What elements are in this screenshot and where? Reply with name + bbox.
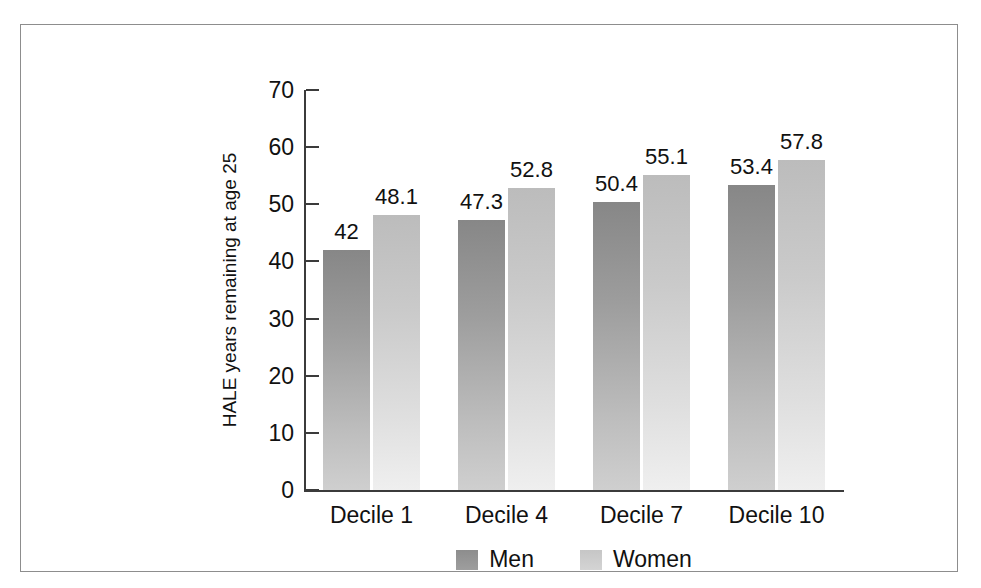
bar-women-decile-4[interactable]: 52.8 <box>508 188 555 490</box>
bar-women-decile-10[interactable]: 57.8 <box>778 160 825 490</box>
bar-group: 47.352.8 <box>458 90 555 490</box>
bar-women-decile-1[interactable]: 48.1 <box>373 215 420 490</box>
y-axis-tick-label: 70 <box>268 77 294 104</box>
chart-legend: MenWomen <box>304 546 844 573</box>
bar-men-decile-4[interactable]: 47.3 <box>458 220 505 490</box>
bar-men-decile-1[interactable]: 42 <box>323 250 370 490</box>
y-axis-tick: 60 <box>306 146 319 148</box>
bar-women-decile-7[interactable]: 55.1 <box>643 175 690 490</box>
y-axis-tick: 0 <box>306 489 319 491</box>
figure-frame: HALE years remaining at age 25 010203040… <box>20 24 958 572</box>
bar-men-decile-10[interactable]: 53.4 <box>728 185 775 490</box>
y-axis-tick-label: 0 <box>281 477 294 504</box>
bar-group: 50.455.1 <box>593 90 690 490</box>
legend-item-men[interactable]: Men <box>456 546 534 573</box>
bar-value-label: 52.8 <box>510 157 553 183</box>
x-axis-baseline <box>304 490 844 492</box>
legend-label-men: Men <box>489 546 534 573</box>
y-axis-tick: 40 <box>306 260 319 262</box>
y-axis-tick: 10 <box>306 432 319 434</box>
bar-group: 4248.1 <box>323 90 420 490</box>
bar-value-label: 47.3 <box>460 189 503 215</box>
bar-value-label: 57.8 <box>780 129 823 155</box>
y-axis-tick: 20 <box>306 375 319 377</box>
y-axis-tick-label: 60 <box>268 134 294 161</box>
y-axis-tick-label: 40 <box>268 248 294 275</box>
y-axis-title: HALE years remaining at age 25 <box>217 90 243 490</box>
plot-area: 010203040506070 4248.147.352.850.455.153… <box>304 90 844 490</box>
bar-value-label: 42 <box>334 219 358 245</box>
y-axis-spine <box>304 90 306 490</box>
y-axis-tick: 30 <box>306 318 319 320</box>
y-axis-tick-label: 20 <box>268 362 294 389</box>
y-axis-tick-label: 10 <box>268 419 294 446</box>
bar-value-label: 48.1 <box>375 184 418 210</box>
y-axis-tick-label: 30 <box>268 305 294 332</box>
legend-swatch-men <box>456 550 478 570</box>
category-label-decile-10: Decile 10 <box>697 502 857 529</box>
bar-value-label: 55.1 <box>645 144 688 170</box>
legend-label-women: Women <box>613 546 692 573</box>
legend-item-women[interactable]: Women <box>580 546 692 573</box>
y-axis-tick: 70 <box>306 89 319 91</box>
bar-group: 53.457.8 <box>728 90 825 490</box>
y-axis-tick-label: 50 <box>268 191 294 218</box>
y-axis-tick: 50 <box>306 203 319 205</box>
bar-men-decile-7[interactable]: 50.4 <box>593 202 640 490</box>
bar-value-label: 53.4 <box>730 154 773 180</box>
legend-swatch-women <box>580 550 602 570</box>
bar-value-label: 50.4 <box>595 171 638 197</box>
